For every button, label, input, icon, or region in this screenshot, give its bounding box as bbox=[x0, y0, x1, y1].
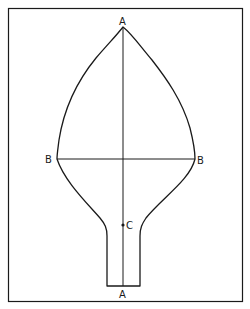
frame-border bbox=[9, 9, 243, 302]
label-a-bottom: A bbox=[119, 289, 126, 300]
diagram-canvas: A B B C A bbox=[0, 0, 250, 309]
label-c: C bbox=[126, 220, 133, 231]
label-a-top: A bbox=[119, 16, 126, 27]
point-c-marker bbox=[121, 223, 124, 226]
label-b-right: B bbox=[197, 155, 204, 166]
label-b-left: B bbox=[45, 154, 52, 165]
leaf-outline bbox=[57, 27, 195, 286]
